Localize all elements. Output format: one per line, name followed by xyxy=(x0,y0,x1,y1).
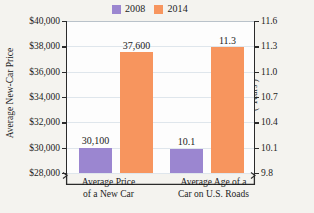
plot-inner: 30,100 37,600 10.1 11.3 xyxy=(67,21,254,173)
category-label-average-price-line1: Average Price xyxy=(56,177,161,189)
right-tick-label-0: 11.6 xyxy=(261,17,277,27)
left-tick-0 xyxy=(62,21,67,22)
right-tick-label-2: 11.0 xyxy=(261,68,277,78)
legend-swatch-2014 xyxy=(154,5,163,14)
bar-label-37600: 37,600 xyxy=(113,41,160,51)
left-tick-label-2: $36,000 xyxy=(29,68,60,78)
bar-2014-average-price[interactable] xyxy=(120,52,153,173)
right-tick-label-4: 10.4 xyxy=(261,118,278,128)
right-tick-5 xyxy=(254,148,259,149)
left-tick-labels: $40,000 $38,000 $36,000 $34,000 $32,000 … xyxy=(0,21,66,173)
right-tick-6 xyxy=(254,173,259,174)
left-tick-5 xyxy=(62,148,67,149)
bar-2008-average-price[interactable] xyxy=(79,148,112,174)
left-tick-1 xyxy=(62,46,67,47)
right-tick-labels: 11.6 11.3 11.0 10.7 10.4 10.1 9.8 xyxy=(255,21,313,173)
category-labels: Average Price of a New Car Average Age o… xyxy=(56,177,266,211)
left-tick-4 xyxy=(62,122,67,123)
legend-label-2008: 2008 xyxy=(125,4,145,14)
right-tick-1 xyxy=(254,46,259,47)
category-label-average-age-line2: Car on U.S. Roads xyxy=(161,189,266,201)
category-label-average-price-line2: of a New Car xyxy=(56,189,161,201)
right-tick-4 xyxy=(254,122,259,123)
right-tick-3 xyxy=(254,97,259,98)
plot-area: 30,100 37,600 10.1 11.3 xyxy=(66,21,255,173)
category-label-average-age: Average Age of a Car on U.S. Roads xyxy=(161,177,266,211)
left-tick-label-1: $38,000 xyxy=(29,42,60,52)
bar-label-10-1: 10.1 xyxy=(163,137,210,147)
left-tick-label-4: $32,000 xyxy=(29,118,60,128)
bar-2008-average-age[interactable] xyxy=(170,149,203,174)
right-tick-label-1: 11.3 xyxy=(261,42,277,52)
legend-entry-2014[interactable]: 2014 xyxy=(154,4,187,14)
legend-entry-2008[interactable]: 2008 xyxy=(112,4,145,14)
left-tick-6 xyxy=(62,173,67,174)
bar-label-30100: 30,100 xyxy=(72,136,119,146)
right-tick-label-3: 10.7 xyxy=(261,93,278,103)
bar-label-11-3: 11.3 xyxy=(204,36,251,46)
legend-label-2014: 2014 xyxy=(167,4,187,14)
category-label-average-age-line1: Average Age of a xyxy=(161,177,266,189)
right-tick-2 xyxy=(254,72,259,73)
gridline-28000 xyxy=(67,173,254,174)
left-tick-2 xyxy=(62,72,67,73)
left-tick-label-0: $40,000 xyxy=(29,17,60,27)
right-tick-label-5: 10.1 xyxy=(261,144,278,154)
left-tick-label-3: $34,000 xyxy=(29,93,60,103)
right-tick-0 xyxy=(254,21,259,22)
legend-swatch-2008 xyxy=(112,5,121,14)
chart-container: 2008 2014 Average New-Car Price Average … xyxy=(0,0,314,213)
left-tick-3 xyxy=(62,97,67,98)
category-label-average-price: Average Price of a New Car xyxy=(56,177,161,211)
gridline-40000 xyxy=(67,21,254,22)
left-tick-label-5: $30,000 xyxy=(29,144,60,154)
chart-legend: 2008 2014 xyxy=(112,3,188,15)
bar-2014-average-age[interactable] xyxy=(211,47,244,173)
